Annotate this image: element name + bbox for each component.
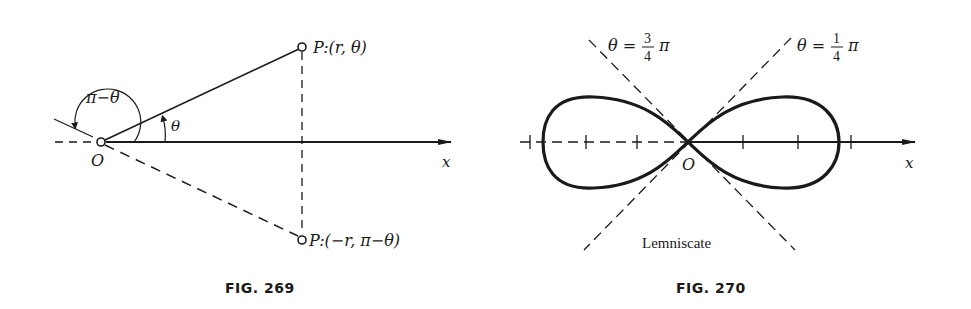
origin-point — [97, 138, 105, 146]
svg-text:4: 4 — [833, 49, 840, 64]
ray-op-negative — [105, 145, 298, 236]
svg-text:π: π — [658, 36, 670, 55]
svg-text:3: 3 — [644, 31, 651, 46]
x-axis-label: x — [905, 154, 914, 172]
fig-270: x O θ = 3 4 π θ = 1 4 — [520, 31, 915, 296]
fig-270-caption: FIG. 270 — [676, 280, 746, 296]
fig-269: x θ π−θ O P:(r, θ) P:(−r, π−θ) FIG. 269 — [54, 38, 451, 296]
asymptote-left-label: θ = 3 4 π — [608, 31, 670, 64]
point-p-label: P:(r, θ) — [312, 38, 367, 57]
origin-label: O — [91, 151, 104, 170]
theta-label: θ — [171, 117, 180, 135]
fig-269-caption: FIG. 269 — [225, 280, 295, 296]
svg-text:θ =: θ = — [797, 36, 825, 55]
pi-minus-theta-label: π−θ — [85, 88, 120, 107]
asymptote-right-label: θ = 1 4 π — [797, 31, 859, 64]
point-p — [298, 43, 306, 51]
point-p-negative — [298, 236, 306, 244]
point-p-negative-label: P:(−r, π−θ) — [308, 231, 400, 250]
svg-text:θ =: θ = — [608, 36, 636, 55]
svg-text:4: 4 — [644, 49, 651, 64]
ray-op — [105, 49, 299, 140]
origin-label: O — [682, 155, 695, 174]
x-axis-label: x — [442, 153, 451, 171]
figure-canvas: x θ π−θ O P:(r, θ) P:(−r, π−θ) FIG. 269 — [0, 0, 971, 309]
curve-name-label: Lemniscate — [642, 235, 711, 251]
theta-arc — [163, 118, 165, 142]
svg-text:1: 1 — [833, 31, 840, 46]
opposite-ray — [54, 119, 93, 137]
svg-text:π: π — [847, 36, 859, 55]
